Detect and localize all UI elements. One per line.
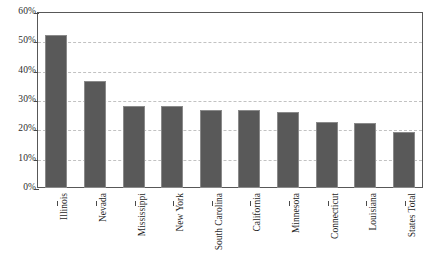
x-axis-tick-label-text: South Carolina <box>215 193 225 250</box>
x-axis-tick-label: States Total <box>408 193 418 237</box>
bar <box>354 123 376 188</box>
y-axis-tick-label: 40% <box>2 66 36 76</box>
x-axis-tick-label-text: Mississippi <box>138 193 148 236</box>
bar <box>84 81 106 188</box>
y-axis-tick-label: 30% <box>2 95 36 105</box>
y-axis-tick-mark <box>34 189 39 190</box>
bar <box>316 122 338 188</box>
x-axis-tick-label: Connecticut <box>331 193 341 239</box>
y-axis-tick-label: 60% <box>2 7 36 17</box>
y-axis-tick-label: 20% <box>2 125 36 135</box>
bar <box>123 106 145 188</box>
x-axis-tick-label: South Carolina <box>215 193 225 250</box>
x-axis: IllinoisNevadaMississippiNew YorkSouth C… <box>37 193 423 265</box>
bar <box>161 106 183 188</box>
x-axis-tick-label: Illinois <box>60 193 70 220</box>
bars-layer <box>37 12 423 188</box>
x-axis-tick-label: Louisiana <box>369 193 379 230</box>
x-axis-tick-label-text: Connecticut <box>331 193 341 239</box>
x-axis-tick-label-text: Nevada <box>99 193 109 222</box>
x-axis-tick-label: Mississippi <box>138 193 148 236</box>
y-axis: 0%10%20%30%40%50%60% <box>0 0 36 275</box>
bar <box>200 110 222 188</box>
x-axis-tick-label-text: Illinois <box>60 193 70 220</box>
bar-chart: 0%10%20%30%40%50%60% IllinoisNevadaMissi… <box>0 0 448 275</box>
bar <box>45 35 67 188</box>
x-axis-tick-label-text: Louisiana <box>369 193 379 230</box>
bar <box>238 110 260 188</box>
x-axis-tick-label-text: States Total <box>408 193 418 237</box>
y-axis-tick-label: 50% <box>2 37 36 47</box>
bar <box>393 132 415 188</box>
x-axis-tick-label-text: California <box>253 193 263 232</box>
x-axis-tick-label: Minnesota <box>292 193 302 233</box>
y-axis-tick-label: 10% <box>2 154 36 164</box>
x-axis-tick-label-text: New York <box>176 193 186 232</box>
x-axis-tick-label: New York <box>176 193 186 232</box>
x-axis-tick-label: Nevada <box>99 193 109 222</box>
bar <box>277 112 299 188</box>
x-axis-tick-label-text: Minnesota <box>292 193 302 233</box>
y-axis-tick-label: 0% <box>2 183 36 193</box>
x-axis-tick-label: California <box>253 193 263 232</box>
